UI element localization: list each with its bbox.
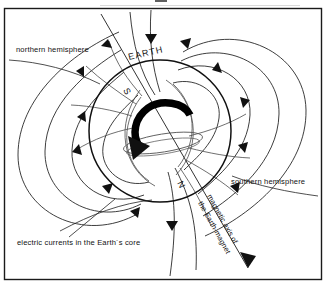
label-electric-currents: electric currents in the Earth´s core [17, 238, 140, 247]
top-edge-rule [100, 5, 300, 6]
label-northern-hemisphere: northern hemisphere [16, 45, 89, 54]
label-southern-hemisphere: southern hemisphere [231, 177, 305, 186]
magnetic-field-diagram: northern hemisphere southern hemisphere … [0, 0, 329, 286]
diagram-canvas: northern hemisphere southern hemisphere … [0, 0, 329, 286]
top-edge-mark [155, 0, 167, 2]
